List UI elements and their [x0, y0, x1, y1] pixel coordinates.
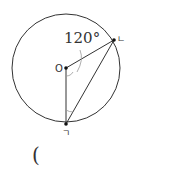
- point-b-label: ㄴ: [117, 34, 125, 44]
- inscribed-angle-arc: [66, 110, 73, 112]
- point-a-label: ㄱ: [62, 128, 70, 138]
- chord-ab: [66, 40, 114, 124]
- angle-label: 120°: [64, 29, 100, 47]
- point-a: [64, 122, 68, 126]
- answer-paren: (: [32, 143, 40, 167]
- center-point: [64, 66, 68, 70]
- circle-diagram: 120° O ㄴ ㄱ: [0, 0, 178, 172]
- angle-arc: [66, 72, 73, 76]
- center-label: O: [55, 63, 63, 74]
- point-b: [112, 38, 116, 42]
